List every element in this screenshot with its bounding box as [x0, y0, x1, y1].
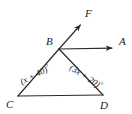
angle-label-ABD: (3x + 20)° — [68, 62, 105, 91]
vertex-label-f: F — [84, 7, 92, 19]
angle-labels: (3x + 20)° (x + 40)° — [18, 62, 104, 91]
geometry-canvas: B C D F A (3x + 20)° (x + 40)° — [0, 0, 132, 114]
vertex-label-a: A — [118, 35, 126, 47]
vertex-label-b: B — [46, 35, 53, 47]
vertex-label-d: D — [99, 99, 108, 111]
ray-BA — [59, 48, 112, 49]
ray-BF — [59, 25, 80, 49]
angle-label-BCD: (x + 40)° — [18, 63, 51, 87]
rays-from-b — [59, 25, 112, 49]
geometry-figure: B C D F A (3x + 20)° (x + 40)° — [0, 0, 132, 114]
angle-expression-bcd: (x + 40) — [18, 64, 49, 87]
segment-CD — [18, 95, 103, 96]
angle-expression-abd: (3x + 20) — [68, 62, 102, 89]
vertex-label-c: C — [6, 98, 14, 110]
